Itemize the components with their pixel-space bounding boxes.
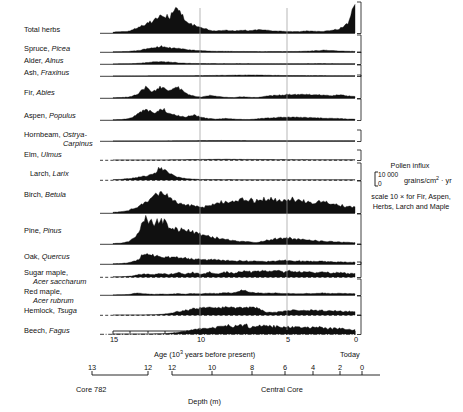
taxon-label-hornbeam-line2: Carpinus — [63, 139, 93, 148]
taxon-latin-name: Fagus — [49, 326, 70, 335]
taxon-latin-name: Fraxinus — [41, 68, 69, 77]
taxon-label-sugar-maple: Sugar maple, — [24, 268, 68, 277]
scale-bracket — [357, 75, 361, 99]
scale-bracket — [357, 296, 361, 316]
taxon-common-name: Hornbeam, — [24, 130, 61, 139]
legend-pollen-influx: Pollen influx — [360, 161, 460, 171]
scale-bracket — [357, 244, 361, 265]
taxon-label-red-maple: Red maple, — [24, 287, 62, 296]
taxon-label-red-maple-latin: Acer rubrum — [33, 296, 74, 305]
scale-bracket — [357, 2, 361, 34]
taxon-label-beech: Beech, Fagus — [24, 326, 70, 335]
core782-tick-label-13: 13 — [83, 363, 101, 372]
scale-bracket — [357, 130, 361, 142]
taxon-silhouette — [113, 62, 355, 64]
taxon-curve-hemlock — [100, 296, 361, 316]
legend-scale-min: 0 — [378, 180, 382, 187]
taxon-label-oak: Oak, Quercus — [24, 252, 70, 261]
taxon-curve-fir — [100, 75, 361, 99]
taxon-silhouette — [113, 159, 355, 160]
taxon-curve-ash — [100, 65, 361, 77]
today-label: Today — [340, 350, 360, 359]
taxon-label-aspen: Aspen, Populus — [24, 111, 76, 120]
taxon-common-name: Sugar maple, — [24, 268, 68, 277]
depth-tick-label-12: 12 — [163, 363, 181, 372]
taxon-label-spruce: Spruce, Picea — [24, 44, 70, 53]
scale-bracket — [357, 99, 361, 121]
scale-bracket — [357, 150, 361, 161]
taxon-common-name: Red maple, — [24, 287, 62, 296]
taxon-silhouette — [113, 324, 355, 334]
taxon-silhouette — [113, 86, 355, 98]
legend-note-line-1: scale 10 × for Fir, Aspen, — [360, 192, 462, 202]
age-tick-label-5: 5 — [279, 335, 297, 344]
taxon-latin-name: Betula — [45, 190, 66, 199]
taxon-curve-hornbeam — [100, 130, 361, 142]
scale-bracket — [357, 315, 361, 335]
legend-title: Pollen influx — [360, 161, 460, 171]
taxon-silhouette — [113, 75, 355, 76]
taxon-common-name: Beech, — [24, 326, 47, 335]
taxon-label-pine: Pine, Pinus — [24, 226, 61, 235]
taxon-latin-name: Quercus — [42, 252, 70, 261]
taxon-silhouette — [113, 46, 355, 52]
taxon-common-name: Oak, — [24, 252, 40, 261]
taxon-label-hornbeam: Hornbeam, Ostrya- — [24, 130, 87, 139]
depth-tick-label-4: 4 — [304, 363, 322, 372]
taxon-silhouette — [113, 270, 355, 277]
scale-bracket — [357, 279, 361, 296]
taxon-latin-name: Tsuga — [57, 306, 77, 315]
taxon-curve-total-herbs — [100, 2, 361, 34]
age-axis-title: Age (103 years before present) — [154, 350, 255, 359]
taxon-latin-name: Larix — [53, 169, 69, 178]
taxon-latin-name: Acer saccharum — [33, 277, 86, 286]
depth-tick-label-0: 0 — [353, 363, 371, 372]
taxon-curve-birch — [100, 181, 361, 214]
taxon-common-name: Birch, — [24, 190, 43, 199]
taxon-silhouette — [113, 290, 355, 295]
age-tick-label-0: 0 — [347, 335, 365, 344]
taxon-common-name: Hemlock, — [24, 306, 55, 315]
taxon-latin-name: Populus — [49, 111, 76, 120]
taxon-latin-name: Picea — [52, 44, 71, 53]
taxon-common-name: Aspen, — [24, 111, 47, 120]
core-number: 782 — [94, 385, 106, 394]
taxon-label-ash: Ash, Fraxinus — [24, 68, 69, 77]
taxon-latin-name: Pinus — [43, 226, 62, 235]
taxon-silhouette — [113, 4, 355, 33]
scale-bracket — [357, 52, 361, 65]
taxon-common-name: Spruce, — [24, 44, 49, 53]
taxon-curve-larch — [100, 163, 361, 181]
scale-bracket — [357, 35, 361, 53]
depth-axis-title: Depth (m) — [188, 397, 221, 406]
central-core-label: Central Core — [261, 385, 303, 394]
taxon-curve-red-maple — [100, 279, 361, 296]
taxon-label-fir: Fir, Abies — [24, 88, 55, 97]
core-label: Core 782 — [76, 385, 106, 394]
depth-tick-label-10: 10 — [203, 363, 221, 372]
legend-scale-max: 10 000 — [378, 171, 398, 178]
taxon-latin-name: Alnus — [45, 56, 64, 65]
taxon-label-elm: Elm, Ulmus — [24, 150, 62, 159]
depth-tick-label-2: 2 — [331, 363, 349, 372]
taxon-latin-name: Ostrya- — [63, 130, 87, 139]
taxon-curve-spruce — [100, 35, 361, 53]
taxon-label-birch: Birch, Betula — [24, 190, 66, 199]
taxon-curve-oak — [100, 244, 361, 265]
taxon-common-name: Elm, — [24, 150, 39, 159]
taxon-curve-aspen — [100, 99, 361, 121]
taxon-label-total-herbs: Total herbs — [24, 25, 60, 34]
taxon-silhouette — [113, 306, 355, 315]
taxon-common-name: Fir, — [24, 88, 34, 97]
taxon-common-name: Pine, — [24, 226, 41, 235]
taxon-common-name: Larch, — [30, 169, 51, 178]
taxon-curve-beech — [100, 315, 361, 335]
taxon-curve-elm — [100, 150, 361, 161]
age-tick-label-15: 15 — [105, 335, 123, 344]
taxon-label-larch: Larch, Larix — [30, 169, 69, 178]
scale-bracket — [357, 214, 361, 245]
taxon-silhouette — [113, 253, 355, 264]
depth-tick-label-8: 8 — [243, 363, 261, 372]
taxon-curve-pine — [100, 214, 361, 245]
taxon-latin-name: Acer rubrum — [33, 296, 74, 305]
